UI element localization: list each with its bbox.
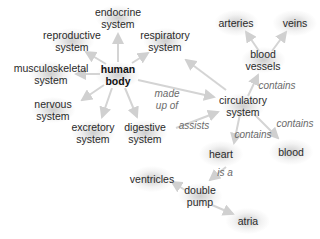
node-respiratory-system[interactable]: respiratory system <box>140 29 190 53</box>
edge-label-contains-vessels: contains <box>258 80 295 92</box>
node-blood-vessels[interactable]: blood vessels <box>245 48 280 72</box>
node-musculoskeletal-system[interactable]: musculoskeletal system <box>14 62 89 86</box>
node-ventricles[interactable]: ventricles <box>130 173 174 185</box>
node-nervous-system[interactable]: nervous system <box>34 98 71 122</box>
edge-label-made-up-of: made up of <box>154 88 179 112</box>
node-double-pump[interactable]: double pump <box>184 184 216 208</box>
node-veins[interactable]: veins <box>283 17 308 29</box>
edge-label-contains-heart: contains <box>234 129 271 141</box>
nodes-layer: endocrine system reproductive system res… <box>0 0 320 239</box>
node-circulatory-system[interactable]: circulatory system <box>219 94 267 118</box>
edge-label-assists: assists <box>179 120 210 132</box>
node-heart[interactable]: heart <box>209 148 233 160</box>
node-reproductive-system[interactable]: reproductive system <box>43 29 101 53</box>
node-atria[interactable]: atria <box>238 215 258 227</box>
edge-label-contains-blood: contains <box>276 118 313 130</box>
node-blood[interactable]: blood <box>278 146 304 158</box>
node-excretory-system[interactable]: excretory system <box>71 121 114 145</box>
node-arteries[interactable]: arteries <box>218 17 253 29</box>
node-human-body[interactable]: human body <box>101 63 135 87</box>
node-endocrine-system[interactable]: endocrine system <box>95 6 141 30</box>
node-digestive-system[interactable]: digestive system <box>124 121 165 145</box>
edge-label-is-a: is a <box>217 167 233 179</box>
